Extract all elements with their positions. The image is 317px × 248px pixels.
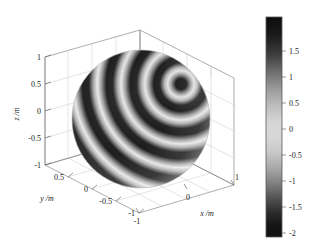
z-tick-label-0: 1 (37, 53, 41, 62)
colorbar-tick-label-2: 0.5 (289, 99, 299, 108)
colorbar-gradient[interactable] (266, 17, 282, 237)
plot-svg: 1 0.5 0 -0.5 -1 z /m 0.5 0 -0.5 -1 y /m … (0, 0, 317, 248)
x-tick-label-0: -1 (134, 217, 141, 226)
z-tick-2 (45, 82, 51, 84)
z-tick-1 (45, 55, 51, 57)
colorbar-tick-label-5: -1 (289, 177, 296, 186)
z-tick-label-2: 0 (37, 107, 41, 116)
colorbar-tick-label-4: -0.5 (289, 151, 302, 160)
colorbar-tick-label-1: 1 (289, 73, 293, 82)
z-tick-4 (45, 136, 51, 138)
colorbar[interactable]: 1.5 1 0.5 0 -0.5 -1 -1.5 -2 (266, 17, 302, 238)
z-tick-label-4: -1 (34, 161, 41, 170)
x-tick-label-1: 0 (186, 193, 190, 202)
z-tick-label-1: 0.5 (31, 80, 41, 89)
z-tick-3 (45, 109, 51, 111)
colorbar-tick-label-3: 0 (289, 125, 293, 134)
z-axis-label: z /m (12, 107, 21, 121)
colorbar-tick-label-7: -2 (289, 229, 296, 238)
y-tick-label-2: -0.5 (99, 197, 112, 206)
y-axis-label: y /m (39, 194, 54, 203)
z-tick-label-3: -0.5 (28, 134, 41, 143)
x-tick-label-2: 1 (235, 173, 239, 182)
figure-canvas: 1 0.5 0 -0.5 -1 z /m 0.5 0 -0.5 -1 y /m … (0, 0, 317, 248)
x-tick-2 (184, 184, 187, 189)
y-tick-label-0: 0.5 (54, 173, 64, 182)
sphere-surface (72, 50, 210, 188)
x-axis-label: x /m (199, 209, 214, 218)
colorbar-ticks (282, 51, 286, 233)
colorbar-tick-label-6: -1.5 (289, 203, 302, 212)
z-tick-5 (45, 163, 51, 165)
colorbar-tick-label-0: 1.5 (289, 47, 299, 56)
y-tick-label-1: 0 (84, 185, 88, 194)
